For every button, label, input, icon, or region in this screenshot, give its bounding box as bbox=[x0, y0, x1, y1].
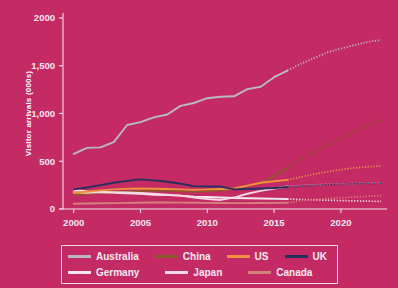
legend-item-label: US bbox=[255, 251, 269, 262]
legend-swatch-icon bbox=[227, 255, 250, 257]
series-forecast-china bbox=[287, 120, 381, 168]
legend-item-label: UK bbox=[313, 251, 327, 262]
legend-swatch-icon bbox=[285, 255, 308, 257]
legend-item-label: Australia bbox=[96, 251, 139, 262]
legend-row-1: AustraliaChinaUSUK bbox=[68, 249, 331, 265]
y-tick-label: 0 bbox=[50, 203, 55, 214]
legend-swatch-icon bbox=[68, 255, 91, 257]
x-tick-label: 2010 bbox=[197, 217, 218, 228]
legend-item-japan[interactable]: Japan bbox=[165, 267, 222, 278]
legend-swatch-icon bbox=[248, 271, 271, 273]
series-forecast-uk bbox=[287, 183, 381, 187]
series-forecast-australia bbox=[287, 40, 381, 71]
legend-item-label: Japan bbox=[193, 267, 222, 278]
y-tick-label: 1,000 bbox=[31, 108, 55, 119]
x-tick-label: 2000 bbox=[63, 217, 84, 228]
legend-swatch-icon bbox=[68, 271, 91, 273]
x-tick-label: 2005 bbox=[130, 217, 152, 228]
legend-item-china[interactable]: China bbox=[155, 251, 211, 262]
series-line-canada bbox=[74, 203, 288, 204]
legend-row-2: GermanyJapanCanada bbox=[68, 265, 331, 281]
legend-swatch-icon bbox=[165, 271, 188, 273]
legend-item-us[interactable]: US bbox=[227, 251, 269, 262]
x-tick-label: 2015 bbox=[264, 217, 286, 228]
series-line-australia bbox=[74, 71, 288, 154]
chart-container: 05001,0001,500200020002005201020152020Vi… bbox=[0, 0, 398, 288]
legend-item-label: China bbox=[183, 251, 211, 262]
legend-item-germany[interactable]: Germany bbox=[68, 267, 139, 278]
y-axis-title: Visitor arrivals (000s) bbox=[24, 71, 33, 157]
y-tick-label: 2000 bbox=[34, 12, 55, 23]
x-tick-label: 2020 bbox=[330, 217, 351, 228]
series-forecast-canada bbox=[287, 196, 381, 203]
legend-item-uk[interactable]: UK bbox=[285, 251, 327, 262]
line-chart-plot: 05001,0001,500200020002005201020152020Vi… bbox=[0, 0, 398, 245]
series-forecast-germany bbox=[287, 199, 381, 201]
legend-item-label: Canada bbox=[276, 267, 312, 278]
series-forecast-us bbox=[287, 166, 381, 180]
y-tick-label: 500 bbox=[39, 156, 55, 167]
y-tick-label: 1,500 bbox=[31, 60, 55, 71]
chart-legend: AustraliaChinaUSUK GermanyJapanCanada bbox=[61, 245, 338, 284]
legend-swatch-icon bbox=[155, 255, 178, 257]
legend-item-australia[interactable]: Australia bbox=[68, 251, 139, 262]
legend-item-label: Germany bbox=[96, 267, 139, 278]
legend-item-canada[interactable]: Canada bbox=[248, 267, 312, 278]
